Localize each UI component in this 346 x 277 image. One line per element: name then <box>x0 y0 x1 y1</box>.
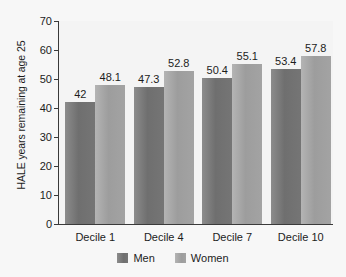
y-tick-mark <box>54 137 59 138</box>
bar-group: 47.352.8Decile 4 <box>134 21 194 224</box>
bar-value-label: 53.4 <box>275 55 296 67</box>
y-axis-title-text: HALE years remaining at age 25 <box>15 41 27 190</box>
y-tick-mark <box>54 195 59 196</box>
y-tick-mark <box>54 166 59 167</box>
y-tick-label: 70 <box>40 15 52 27</box>
legend-swatch-men <box>117 253 128 263</box>
bar-value-label: 57.8 <box>305 42 326 54</box>
x-axis-category-label: Decile 1 <box>75 231 115 243</box>
y-tick-label: 60 <box>40 44 52 56</box>
bar-group: 50.455.1Decile 7 <box>202 21 262 224</box>
legend-label-men: Men <box>133 252 154 264</box>
chart-figure: HALE years remaining at age 25 010203040… <box>0 0 346 277</box>
x-axis-category-label: Decile 10 <box>278 231 324 243</box>
y-tick-mark <box>54 79 59 80</box>
bar-value-label: 48.1 <box>100 71 121 83</box>
bar-women-decile-4[interactable]: 52.8 <box>164 71 194 224</box>
y-tick-mark <box>54 21 59 22</box>
bar-men-decile-10[interactable]: 53.4 <box>271 69 301 224</box>
legend-item-women[interactable]: Women <box>175 252 229 264</box>
bar-value-label: 55.1 <box>237 50 258 62</box>
legend-label-women: Women <box>191 252 229 264</box>
bar-women-decile-7[interactable]: 55.1 <box>232 64 262 224</box>
y-tick-label: 10 <box>40 189 52 201</box>
y-tick-label: 20 <box>40 160 52 172</box>
chart-legend: MenWomen <box>0 252 346 264</box>
y-tick-label: 50 <box>40 73 52 85</box>
bar-men-decile-7[interactable]: 50.4 <box>202 78 232 224</box>
bar-value-label: 42 <box>74 88 86 100</box>
y-tick-label: 40 <box>40 102 52 114</box>
legend-swatch-women <box>175 253 186 263</box>
y-axis-title: HALE years remaining at age 25 <box>10 0 32 230</box>
x-axis-category-label: Decile 4 <box>144 231 184 243</box>
bar-men-decile-4[interactable]: 47.3 <box>134 87 164 224</box>
y-tick-label: 30 <box>40 131 52 143</box>
bar-value-label: 50.4 <box>207 64 228 76</box>
y-tick-mark <box>54 108 59 109</box>
bar-women-decile-10[interactable]: 57.8 <box>301 56 331 224</box>
x-axis-category-label: Decile 7 <box>212 231 252 243</box>
y-tick-mark <box>54 50 59 51</box>
bar-group: 4248.1Decile 1 <box>65 21 125 224</box>
bar-group: 53.457.8Decile 10 <box>271 21 331 224</box>
legend-item-men[interactable]: Men <box>117 252 154 264</box>
bar-value-label: 52.8 <box>168 57 189 69</box>
plot-area: 010203040506070 4248.1Decile 147.352.8De… <box>58 21 333 225</box>
bar-value-label: 47.3 <box>138 73 159 85</box>
y-tick-mark <box>54 224 59 225</box>
y-tick-label: 0 <box>46 218 52 230</box>
bar-women-decile-1[interactable]: 48.1 <box>95 85 125 224</box>
bar-men-decile-1[interactable]: 42 <box>65 102 95 224</box>
